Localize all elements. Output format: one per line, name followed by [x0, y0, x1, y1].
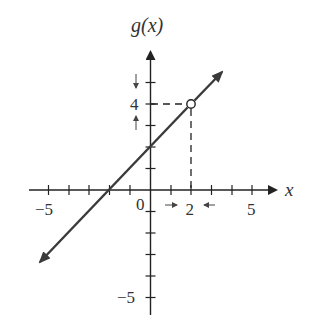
y-axis-label: g(x) [131, 14, 164, 37]
limit-graph-figure: g(x) x 0 −5 2 5 4 −5 g(x) = x2 − 4 x − 2 [0, 0, 310, 325]
x-tick-label-5: 5 [247, 200, 256, 219]
x-axis-label: x [284, 179, 294, 200]
y-axis [146, 52, 156, 315]
line-segment-lower [40, 108, 188, 263]
graph-canvas: g(x) x 0 −5 2 5 4 −5 [0, 0, 310, 325]
line-segment-upper [195, 72, 223, 101]
y-tick-label-neg5: −5 [117, 288, 135, 307]
origin-label: 0 [136, 195, 145, 214]
x-tick-label-neg5: −5 [35, 200, 53, 219]
x-tick-label-2: 2 [186, 200, 195, 219]
open-circle-hole [187, 100, 195, 108]
x-axis [29, 185, 276, 195]
dashed-guides [151, 104, 191, 190]
y-tick-label-4: 4 [130, 95, 139, 114]
